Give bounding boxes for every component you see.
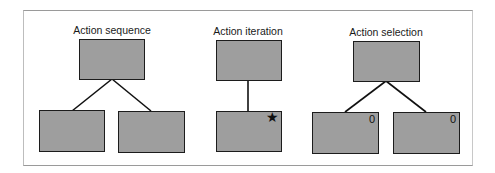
action-sequence-title: Action sequence bbox=[73, 24, 151, 36]
star-icon: ★ bbox=[266, 111, 279, 123]
selection-child-node: 0 bbox=[393, 112, 460, 154]
sequence-parent-node bbox=[79, 39, 145, 80]
connector-line bbox=[112, 79, 151, 111]
action-iteration-title: Action iteration bbox=[213, 25, 282, 37]
iteration-child-node: ★ bbox=[216, 111, 282, 152]
connector-line bbox=[345, 81, 386, 112]
sequence-child-node bbox=[39, 110, 105, 152]
selection-child-node: 0 bbox=[312, 112, 379, 154]
action-selection-title: Action selection bbox=[349, 26, 423, 38]
node-marker: 0 bbox=[450, 113, 456, 125]
connector-line bbox=[386, 81, 426, 112]
connector-line bbox=[72, 79, 112, 111]
node-marker: 0 bbox=[369, 113, 375, 125]
selection-parent-node bbox=[353, 41, 420, 82]
sequence-child-node bbox=[118, 111, 185, 153]
iteration-parent-node bbox=[216, 40, 282, 81]
